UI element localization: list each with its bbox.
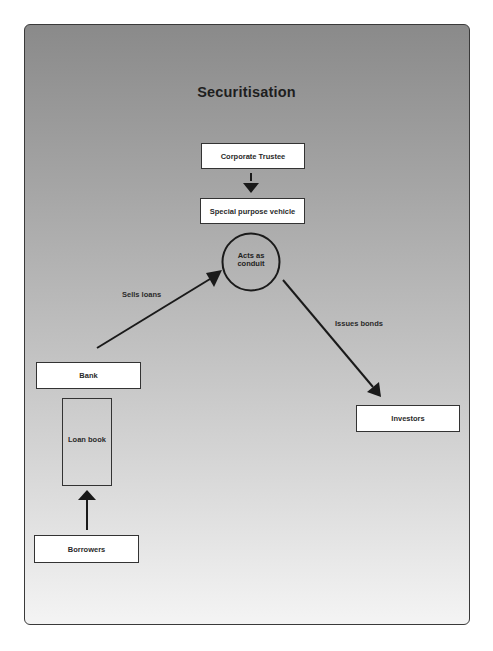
node-investors: Investors: [356, 405, 460, 432]
edge-label-sells-loans: Sells loans: [122, 290, 161, 299]
arrow-trustee-to-spv: [243, 173, 259, 193]
node-label: Corporate Trustee: [221, 152, 286, 161]
node-special-purpose-vehicle: Special purpose vehicle: [200, 198, 305, 224]
arrow-sells-loans: [97, 270, 222, 348]
node-corporate-trustee: Corporate Trustee: [201, 143, 305, 169]
node-label: Borrowers: [68, 545, 106, 554]
node-label: Loan book: [68, 435, 106, 444]
arrow-borrowers-to-loan-book: [78, 490, 96, 530]
edge-label-issues-bonds: Issues bonds: [335, 319, 383, 328]
node-label: Special purpose vehicle: [210, 207, 295, 216]
node-bank: Bank: [36, 362, 141, 389]
node-loan-book: Loan book: [62, 398, 112, 486]
node-borrowers: Borrowers: [34, 535, 139, 563]
node-label: Investors: [391, 414, 424, 423]
arrow-issues-bonds: [283, 280, 381, 397]
node-conduit-label: Acts as conduit: [221, 252, 281, 268]
node-label: Bank: [79, 371, 97, 380]
conduit-label-line2: conduit: [221, 260, 281, 268]
